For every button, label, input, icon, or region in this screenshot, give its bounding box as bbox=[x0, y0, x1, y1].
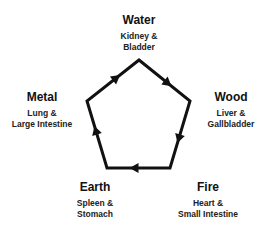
organ-label: Spleen & Stomach bbox=[55, 198, 135, 220]
node-fire: Fire Heart & Small Intestine bbox=[160, 180, 256, 220]
organ-label: Lung & Large Intestine bbox=[0, 108, 84, 130]
element-label: Earth bbox=[55, 180, 135, 194]
organ-label: Kidney & Bladder bbox=[94, 31, 184, 53]
node-metal: Metal Lung & Large Intestine bbox=[0, 90, 84, 130]
node-earth: Earth Spleen & Stomach bbox=[55, 180, 135, 220]
element-label: Metal bbox=[0, 90, 84, 104]
organ-label: Liver & Gallbladder bbox=[196, 108, 264, 130]
organ-label: Heart & Small Intestine bbox=[160, 198, 256, 220]
arrow-fire-to-earth-icon bbox=[130, 163, 139, 173]
element-label: Wood bbox=[196, 90, 264, 104]
pentagon-outline bbox=[87, 60, 190, 168]
node-water: Water Kidney & Bladder bbox=[94, 13, 184, 53]
element-label: Fire bbox=[160, 180, 256, 194]
node-wood: Wood Liver & Gallbladder bbox=[196, 90, 264, 130]
element-label: Water bbox=[94, 13, 184, 27]
